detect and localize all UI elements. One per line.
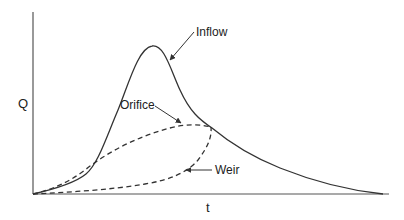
weir-label: Weir bbox=[215, 164, 239, 176]
orifice-label: Orifice bbox=[120, 99, 155, 111]
hydrograph-figure: Q t Inflow Orifice Weir bbox=[0, 0, 404, 220]
inflow-curve bbox=[33, 46, 383, 194]
x-axis-label: t bbox=[206, 201, 210, 214]
y-axis-label: Q bbox=[18, 97, 28, 110]
orifice-callout-arrow bbox=[155, 106, 181, 123]
inflow-callout-arrow bbox=[170, 32, 194, 60]
weir-curve bbox=[33, 127, 211, 194]
inflow-label: Inflow bbox=[196, 26, 227, 38]
orifice-curve bbox=[33, 125, 211, 194]
